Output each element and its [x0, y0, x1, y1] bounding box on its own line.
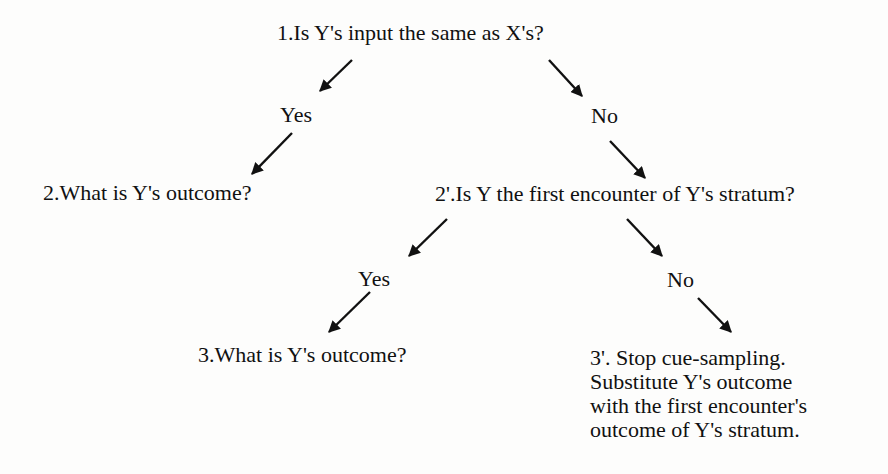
arrow-q1-to-no [549, 60, 582, 96]
answer-no-q2p: No [667, 268, 694, 292]
outcome-3-prime-line-4: outcome of Y's stratum. [590, 418, 807, 442]
answer-yes-q1: Yes [280, 103, 312, 127]
question-3: 3.What is Y's outcome? [198, 343, 406, 367]
question-2-prime: 2'.Is Y the first encounter of Y's strat… [435, 182, 795, 206]
question-2: 2.What is Y's outcome? [43, 181, 251, 205]
outcome-3-prime-line-2: Substitute Y's outcome [590, 370, 807, 394]
outcome-3-prime-line-1: 3'. Stop cue-sampling. [590, 346, 807, 370]
arrow-yes-to-q2 [252, 133, 292, 174]
arrow-no-to-q3p [698, 298, 731, 332]
outcome-3-prime-line-3: with the first encounter's [590, 394, 807, 418]
arrow-q2p-to-yes [409, 219, 447, 256]
arrow-no-to-q2p [610, 141, 645, 178]
arrow-q2p-to-no [627, 219, 662, 256]
outcome-3-prime: 3'. Stop cue-sampling. Substitute Y's ou… [590, 346, 807, 442]
arrow-q1-to-yes [320, 60, 352, 91]
answer-no-q1: No [591, 104, 618, 128]
arrow-yes-to-q3 [329, 292, 370, 332]
question-1: 1.Is Y's input the same as X's? [277, 21, 544, 45]
answer-yes-q2p: Yes [358, 267, 390, 291]
